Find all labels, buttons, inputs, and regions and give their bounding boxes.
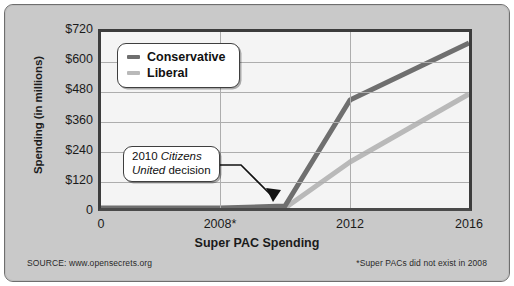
legend-swatch-icon-conservative	[127, 55, 140, 60]
legend-item-liberal[interactable]: Liberal	[127, 65, 226, 81]
x-tick-2012: 2012	[336, 217, 364, 231]
y-tick-360: $360	[35, 113, 93, 127]
chart-card: Spending (in millions) $720 $600 $480 $3…	[4, 4, 510, 282]
legend-swatch-icon-liberal	[127, 71, 140, 76]
annotation-case-word-2: United	[132, 164, 165, 176]
legend-label-liberal: Liberal	[147, 66, 188, 80]
y-tick-600: $600	[35, 52, 93, 66]
y-tick-720: $720	[35, 22, 93, 36]
legend-item-conservative[interactable]: Conservative	[127, 49, 226, 65]
source-credit: SOURCE: www.opensecrets.org	[27, 258, 152, 268]
legend-label-conservative: Conservative	[147, 50, 226, 64]
x-axis-title: Super PAC Spending	[5, 236, 509, 250]
annotation-line-2: United decision	[132, 164, 211, 178]
annotation-decision-word: decision	[165, 164, 210, 176]
y-tick-480: $480	[35, 82, 93, 96]
x-tick-0: 0	[98, 217, 105, 231]
annotation-year: 2010	[132, 150, 161, 162]
x-tick-2008: 2008*	[204, 217, 237, 231]
y-tick-120: $120	[35, 173, 93, 187]
y-tick-240: $240	[35, 143, 93, 157]
annotation-case-word-1: Citizens	[161, 150, 202, 162]
y-tick-0: 0	[35, 203, 93, 217]
x-tick-2016: 2016	[455, 217, 483, 231]
chart-legend: Conservative Liberal	[117, 43, 240, 88]
citizens-united-annotation: 2010 Citizens United decision	[123, 146, 220, 182]
annotation-line-1: 2010 Citizens	[132, 150, 211, 164]
footnote-text: *Super PACs did not exist in 2008	[356, 258, 487, 268]
